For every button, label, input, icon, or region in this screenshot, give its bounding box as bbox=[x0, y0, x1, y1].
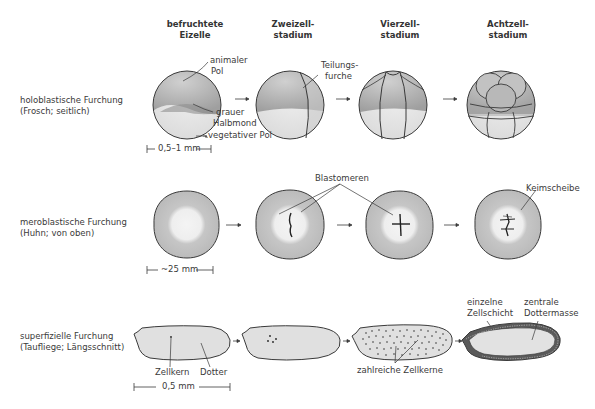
label-nucleus: Zellkern bbox=[155, 367, 189, 378]
label-many-nuclei: zahlreiche Zellkerne bbox=[357, 365, 443, 376]
label-central-yolk: zentrale Dottermasse bbox=[524, 297, 579, 319]
fly-egg-early-nuclei bbox=[242, 326, 340, 360]
chick-eight-cell-disc bbox=[475, 190, 541, 259]
label-gray-crescent: grauer Halbmond bbox=[216, 107, 257, 129]
fly-egg-uncleaved bbox=[134, 326, 230, 360]
label-line: einzelne bbox=[467, 297, 513, 308]
label-blastodisc: Keimscheibe bbox=[526, 183, 580, 194]
scale-label-row3: 0,5 mm bbox=[162, 381, 195, 392]
frog-eight-cell bbox=[464, 68, 544, 148]
label-cleavage-furrow: Teilungs- furche bbox=[321, 60, 358, 82]
label-line: zentrale bbox=[524, 297, 579, 308]
chick-two-cell-disc bbox=[256, 190, 324, 259]
label-yolk: Dotter bbox=[200, 367, 227, 378]
fly-egg-syncytial bbox=[352, 325, 452, 360]
label-animal-pole: animaler Pol bbox=[210, 55, 248, 77]
label-line: Zellschicht bbox=[467, 308, 513, 319]
label-line: furche bbox=[321, 71, 358, 82]
label-vegetal-pole: vegetativer Pol bbox=[208, 130, 272, 141]
chick-uncleaved-disc bbox=[154, 191, 219, 258]
frog-four-cell bbox=[356, 68, 436, 148]
label-blastomeres: Blastomeren bbox=[315, 173, 369, 184]
label-line: Dottermasse bbox=[524, 308, 579, 319]
label-line: Halbmond bbox=[213, 118, 257, 129]
scale-label-row2: ~25 mm bbox=[161, 264, 198, 275]
label-line: Pol bbox=[210, 66, 248, 77]
label-single-cell-layer: einzelne Zellschicht bbox=[467, 297, 513, 319]
chick-four-cell-disc bbox=[366, 191, 433, 259]
scale-label-row1: 0,5–1 mm bbox=[158, 143, 200, 154]
fly-egg-blastoderm bbox=[462, 323, 560, 361]
label-line: animaler bbox=[210, 55, 248, 66]
label-line: Teilungs- bbox=[321, 60, 358, 71]
cleavage-diagram bbox=[0, 0, 595, 409]
label-line: grauer bbox=[216, 107, 257, 118]
